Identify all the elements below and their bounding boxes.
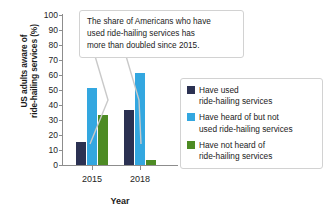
y-tick-mark-50 — [59, 90, 62, 91]
y-tick-mark-20 — [59, 135, 62, 136]
legend-item-not-heard: Have not heard of ride-hailing services — [187, 140, 317, 162]
legend-swatch-green-icon — [187, 141, 195, 149]
bar-2018-heard-not-used — [135, 73, 145, 165]
legend-label-heard-not-used-line-1: Have heard of but not — [199, 112, 279, 122]
y-axis-title-line-1: US adults aware of — [19, 34, 30, 107]
annotation-line-1: The share of Americans who have — [87, 16, 237, 28]
y-tick-mark-100 — [59, 15, 62, 16]
y-tick-mark-60 — [59, 75, 62, 76]
y-tick-mark-90 — [59, 30, 62, 31]
x-tick-label-2018: 2018 — [120, 174, 160, 184]
y-tick-label-70: 70 — [30, 55, 58, 65]
annotation-line-2: used ride-hailing services has — [87, 28, 237, 40]
x-tick-label-2015: 2015 — [72, 174, 112, 184]
y-tick-label-40: 40 — [30, 100, 58, 110]
y-tick-label-20: 20 — [30, 130, 58, 140]
annotation-line-3: more than doubled since 2015. — [87, 40, 237, 52]
legend-item-have-used: Have used ride-hailing services — [187, 85, 317, 107]
y-tick-mark-40 — [59, 105, 62, 106]
y-tick-mark-0 — [59, 165, 62, 166]
y-tick-label-10: 10 — [30, 145, 58, 155]
bar-2015-have-used — [76, 142, 86, 165]
y-tick-label-100: 100 — [30, 10, 58, 20]
legend-label-heard-not-used-line-2: used ride-hailing services — [199, 124, 293, 134]
y-tick-mark-70 — [59, 60, 62, 61]
y-tick-label-90: 90 — [30, 25, 58, 35]
legend: Have used ride-hailing services Have hea… — [180, 78, 323, 169]
legend-swatch-navy-icon — [187, 86, 195, 94]
legend-swatch-blue-icon — [187, 113, 195, 121]
y-tick-label-0: 0 — [30, 160, 58, 170]
legend-label-not-heard: Have not heard of ride-hailing services — [199, 140, 272, 162]
legend-label-heard-not-used: Have heard of but not used ride-hailing … — [199, 112, 293, 134]
x-axis-line — [62, 165, 178, 166]
legend-item-heard-not-used: Have heard of but not used ride-hailing … — [187, 112, 317, 134]
annotation-callout: The share of Americans who have used rid… — [79, 10, 244, 58]
bar-2018-have-used — [124, 110, 134, 165]
legend-label-have-used-line-1: Have used — [199, 85, 239, 95]
y-axis-line — [62, 14, 63, 166]
y-tick-mark-30 — [59, 120, 62, 121]
bar-2015-not-heard — [98, 115, 108, 165]
y-tick-label-30: 30 — [30, 115, 58, 125]
x-tick-mark-2015 — [92, 166, 93, 170]
bar-2018-not-heard — [146, 160, 156, 165]
y-tick-label-50: 50 — [30, 85, 58, 95]
legend-label-have-used-line-2: ride-hailing services — [199, 96, 272, 106]
y-tick-mark-80 — [59, 45, 62, 46]
legend-label-not-heard-line-1: Have not heard of — [199, 140, 265, 150]
legend-label-not-heard-line-2: ride-hailing services — [199, 151, 272, 161]
legend-label-have-used: Have used ride-hailing services — [199, 85, 272, 107]
x-tick-mark-2018 — [140, 166, 141, 170]
bar-2015-heard-not-used — [87, 88, 97, 165]
bar-chart-figure: US adults aware of ride-hailing services… — [0, 0, 328, 220]
y-tick-label-80: 80 — [30, 40, 58, 50]
x-axis-title: Year — [62, 196, 178, 206]
y-tick-label-60: 60 — [30, 70, 58, 80]
y-tick-mark-10 — [59, 150, 62, 151]
